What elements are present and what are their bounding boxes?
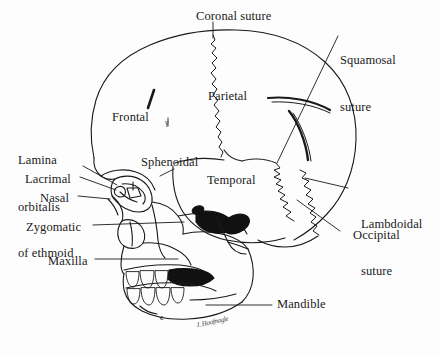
mental-protuberance — [140, 306, 157, 314]
label-occipital: Occipital — [353, 228, 400, 243]
mandible-ramus-posterior — [242, 249, 253, 302]
label-lamina-line1: Lamina — [18, 153, 74, 169]
nasal-bone — [112, 196, 123, 221]
upper-teeth — [126, 271, 168, 288]
leader-sphenoidal — [160, 169, 174, 176]
leader-occipital — [297, 200, 340, 231]
leader-lamina — [83, 166, 117, 185]
lower-teeth — [127, 288, 184, 305]
leader-lambdoidal — [305, 178, 348, 188]
skull-outline-group — [78, 22, 356, 319]
label-maxilla: Maxilla — [48, 254, 88, 269]
label-sphenoidal: Sphenoidal — [141, 155, 198, 170]
label-lacrimal: Lacrimal — [25, 172, 71, 187]
zygomatic-arch-lower — [183, 232, 248, 249]
nasal-septum — [130, 222, 132, 246]
chin-mark-letter: c — [160, 313, 164, 322]
label-mandible: Mandible — [277, 297, 326, 312]
label-zygomatic: Zygomatic — [26, 220, 81, 235]
leader-nasal — [78, 196, 110, 199]
frontal-tick-mark — [148, 90, 154, 108]
maxilla-lateral-border — [152, 205, 165, 258]
label-coronal-suture: Coronal suture — [196, 9, 271, 24]
label-temporal: Temporal — [207, 173, 256, 188]
cranium-outline — [91, 30, 356, 240]
squamosal-suture-line — [242, 159, 294, 221]
label-lambdoidal-line2: suture — [361, 264, 422, 280]
frontal-leader-tick: γ — [165, 118, 169, 127]
label-squamosal-suture-line1: Squamosal — [340, 53, 396, 69]
coronal-suture-lower — [224, 150, 242, 161]
skull-diagram-figure: Coronal suture Squamosal suture Parietal… — [0, 0, 440, 357]
label-nasal: Nasal — [40, 191, 69, 206]
orbit-rim — [111, 176, 152, 212]
label-lambdoidal-suture: Lambdoidal suture — [361, 186, 422, 310]
label-squamosal-suture: Squamosal suture — [340, 22, 396, 146]
maxilla-body — [143, 243, 191, 265]
orbit-inner-detail-1 — [127, 188, 141, 198]
label-squamosal-suture-line2: suture — [340, 100, 396, 116]
lambdoidal-suture-line — [300, 170, 319, 235]
frontal-anterior-border — [94, 158, 115, 179]
temporal-line-arc-2 — [272, 102, 330, 113]
label-parietal: Parietal — [208, 89, 247, 104]
mandible-oblique-line — [190, 294, 236, 300]
supraorbital-ridge — [101, 170, 155, 190]
label-frontal: Frontal — [112, 110, 149, 125]
leader-zygomatic — [93, 222, 184, 225]
